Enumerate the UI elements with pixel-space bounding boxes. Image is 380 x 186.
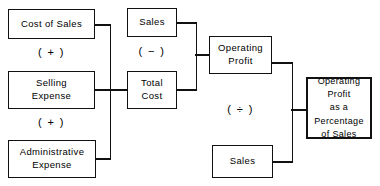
connector-left-trunk <box>110 24 112 159</box>
connector-operating-profit-stub <box>271 62 293 64</box>
flow-diagram: Cost of Sales ( + ) Selling Expense ( + … <box>0 0 380 186</box>
node-total-cost[interactable]: Total Cost <box>127 71 177 109</box>
connector-profit-trunk <box>196 22 198 90</box>
operator-divide: ( ÷ ) <box>209 103 272 115</box>
node-selling-expense[interactable]: Selling Expense <box>8 71 95 109</box>
connector-sales-top-stub <box>176 22 197 24</box>
connector-total-cost-stub <box>176 89 197 91</box>
node-cost-of-sales[interactable]: Cost of Sales <box>8 9 95 39</box>
connector-trunk-to-operating-profit <box>195 54 210 56</box>
connector-result-trunk <box>292 62 294 162</box>
node-sales-top[interactable]: Sales <box>127 8 177 37</box>
operator-plus-lower: ( + ) <box>8 116 95 128</box>
operator-minus: ( − ) <box>127 45 177 57</box>
node-sales-bottom[interactable]: Sales <box>212 145 273 178</box>
node-operating-profit-percentage-of-sales[interactable]: Operating Profit as a Percentage of Sale… <box>306 77 372 139</box>
node-operating-profit[interactable]: Operating Profit <box>209 36 272 74</box>
node-administrative-expense[interactable]: Administrative Expense <box>8 140 96 178</box>
connector-trunk-to-result <box>291 109 307 111</box>
operator-plus-upper: ( + ) <box>8 46 95 58</box>
connector-sales-bottom-stub <box>272 161 293 163</box>
